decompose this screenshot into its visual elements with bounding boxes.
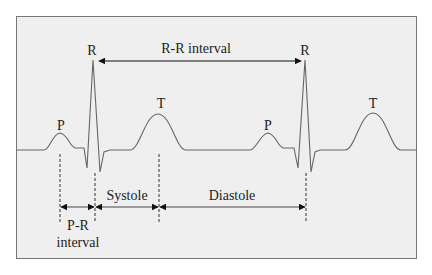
wave-label-t1: T	[157, 96, 166, 111]
pr-interval-label-line2: interval	[57, 235, 100, 250]
wave-label-p2: P	[264, 118, 272, 133]
pr-interval-label-line1: P-R	[67, 218, 89, 233]
rr-interval-label: R-R interval	[161, 41, 231, 56]
wave-label-r2: R	[300, 43, 310, 58]
wave-label-r1: R	[87, 43, 97, 58]
diastole-label: Diastole	[209, 188, 256, 203]
ecg-diagram: P R T P R T R-R interval P-R interval Sy…	[0, 0, 432, 275]
ecg-trace	[17, 60, 417, 172]
wave-label-p1: P	[57, 118, 65, 133]
wave-label-t2: T	[369, 96, 378, 111]
systole-label: Systole	[106, 188, 147, 203]
